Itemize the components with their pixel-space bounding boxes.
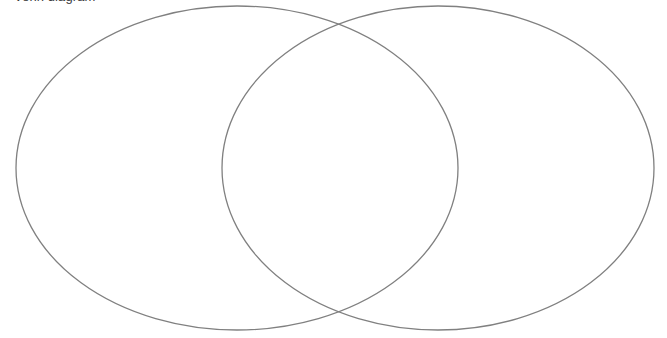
venn-diagram-canvas: Venn diagram [0,0,667,338]
diagram-title: Venn diagram [14,0,95,4]
venn-diagram-graphic [0,0,667,338]
venn-set-right-circle[interactable] [222,6,654,330]
